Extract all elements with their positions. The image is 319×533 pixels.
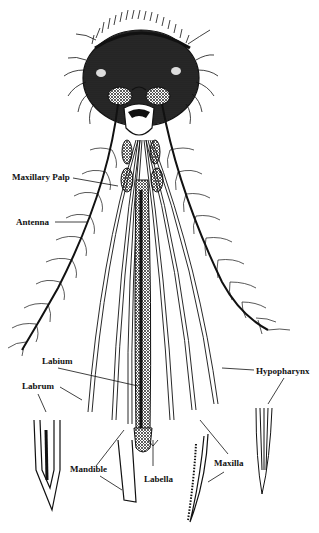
mandible-detail (118, 440, 136, 502)
diagram-illustration (0, 0, 319, 533)
label-maxilla: Maxilla (214, 458, 244, 468)
label-labrum: Labrum (22, 381, 54, 391)
label-labium: Labium (42, 356, 73, 366)
hypopharynx-detail (256, 408, 272, 494)
label-labella: Labella (144, 474, 173, 484)
head (64, 10, 218, 135)
label-mandible: Mandible (70, 464, 107, 474)
mosquito-mouthparts-diagram: Maxillary Palp Antenna Labium Labrum Hyp… (0, 0, 319, 533)
labium (134, 180, 152, 452)
label-hypopharynx: Hypopharynx (256, 366, 310, 376)
leader-lines (38, 178, 284, 490)
labrum-detail (34, 420, 60, 510)
label-maxillary-palp: Maxillary Palp (12, 172, 70, 182)
maxilla-detail (188, 434, 208, 522)
label-antenna: Antenna (16, 217, 49, 227)
